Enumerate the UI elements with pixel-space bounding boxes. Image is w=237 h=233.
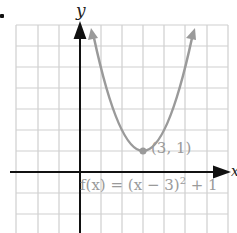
x-axis-label: x	[231, 163, 237, 179]
y-axis-label: y	[76, 0, 86, 20]
function-label-base: f(x) = (x − 3)	[80, 176, 180, 194]
function-label-suffix: + 1	[186, 176, 218, 194]
vertex-label: (3, 1)	[151, 139, 191, 157]
graph	[0, 0, 237, 233]
axes	[10, 24, 228, 233]
function-label: f(x) = (x − 3)2 + 1	[80, 175, 218, 194]
vertex-point	[140, 148, 147, 155]
